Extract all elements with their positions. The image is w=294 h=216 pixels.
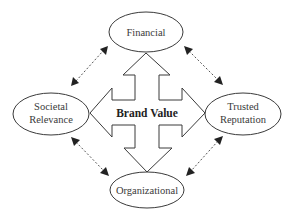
node-trusted-reputation: Trusted Reputation [205, 93, 281, 135]
dashed-arrow-financial-trusted [184, 46, 223, 85]
arrowhead-icon [71, 137, 80, 146]
node-societal-relevance-label-line2: Relevance [29, 114, 73, 125]
center-label: Brand Value [116, 107, 178, 119]
arrowhead-icon [184, 46, 193, 55]
node-financial-label: Financial [126, 27, 165, 38]
node-societal-relevance-label-line1: Societal [34, 101, 68, 112]
dashed-arrow-trusted-organizational [186, 136, 223, 176]
dashed-arrow-financial-societal [71, 46, 108, 86]
node-organizational: Organizational [110, 172, 184, 208]
node-trusted-reputation-label-line2: Reputation [220, 114, 267, 125]
brand-value-diagram: Brand Value Financial Societal Relevance… [0, 0, 294, 216]
dashed-arrow-societal-organizational [71, 137, 109, 176]
node-organizational-label: Organizational [116, 185, 178, 196]
node-societal-relevance: Societal Relevance [13, 93, 89, 135]
node-financial: Financial [109, 12, 183, 52]
arrowhead-icon [214, 136, 223, 145]
node-trusted-reputation-label-line1: Trusted [227, 101, 259, 112]
arrowhead-icon [71, 77, 79, 86]
